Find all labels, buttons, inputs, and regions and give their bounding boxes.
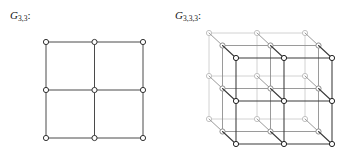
graph-vertex [281,98,286,103]
graph-vertex [92,87,97,92]
panel-grid-3d: G3,3,3: [175,0,350,158]
graph-vertex [329,98,334,103]
graph-canvas-g33 [0,0,175,158]
graph-vertex [92,135,97,140]
graph-vertex [233,141,238,146]
graph-vertex [140,135,145,140]
graph-vertex [43,39,48,44]
graph-vertex [233,55,238,60]
graph-vertex [281,141,286,146]
graph-canvas-g333 [175,0,350,158]
graph-vertex [43,87,48,92]
panel-grid-2d: G3,3: [0,0,175,158]
graph-vertex [43,135,48,140]
graph-vertex [281,55,286,60]
graph-vertex [140,87,145,92]
graph-vertex [329,141,334,146]
graph-vertex [140,39,145,44]
graph-vertex [233,98,238,103]
figure-root: G3,3: G3,3,3: [0,0,350,158]
graph-vertex [92,39,97,44]
graph-vertex [329,55,334,60]
